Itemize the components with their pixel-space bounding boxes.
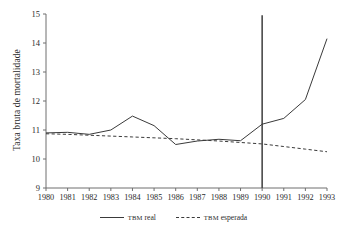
y-tick-label: 11 bbox=[18, 125, 40, 135]
y-tick-label: 10 bbox=[18, 154, 40, 164]
legend-item-tbm-real[interactable]: TBM real bbox=[100, 212, 156, 222]
y-tick-label: 12 bbox=[18, 96, 40, 106]
legend-label-tbm-esperada: TBM esperada bbox=[204, 213, 247, 222]
legend-prefix-tbm: TBM bbox=[204, 214, 219, 221]
legend-swatch-dashed bbox=[176, 215, 200, 221]
legend-prefix-tbm: TBM bbox=[128, 214, 143, 221]
chart-legend: TBM real TBM esperada bbox=[0, 212, 347, 222]
y-tick-label: 9 bbox=[18, 183, 40, 193]
legend-text-real: real bbox=[145, 213, 156, 222]
y-tick-label: 14 bbox=[18, 38, 40, 48]
x-tick-label: 1993 bbox=[311, 193, 343, 203]
y-tick-label: 13 bbox=[18, 67, 40, 77]
axes-group bbox=[43, 14, 327, 191]
legend-swatch-solid bbox=[100, 215, 124, 221]
legend-label-tbm-real: TBM real bbox=[128, 213, 156, 222]
series-group bbox=[46, 15, 327, 188]
legend-item-tbm-esperada[interactable]: TBM esperada bbox=[176, 212, 247, 222]
legend-text-esperada: esperada bbox=[221, 213, 248, 222]
series-line-tbm-real bbox=[46, 39, 327, 145]
chart-figure: Taxa bruta de mortalidade 9101112131415 … bbox=[0, 0, 347, 236]
y-tick-label: 15 bbox=[18, 9, 40, 19]
